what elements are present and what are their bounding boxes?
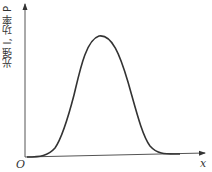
x-axis-label: x: [200, 157, 207, 170]
intensity-curve: [27, 36, 180, 157]
origin-label: O: [16, 158, 25, 171]
y-axis-label: 光强 I, 功率 P: [1, 6, 15, 68]
chart-canvas: O x: [0, 0, 212, 172]
